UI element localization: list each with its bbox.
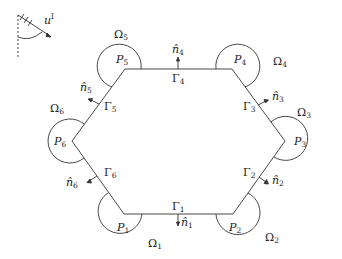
hexagon-diagram	[0, 0, 342, 259]
normal-n1-label: n̂1	[181, 217, 193, 230]
region-omega5-label: Ω5	[114, 29, 128, 42]
region-omega4-label: Ω4	[273, 56, 287, 69]
region-omega1-label: Ω1	[148, 238, 162, 251]
normal-n4-label: n̂4	[172, 44, 184, 57]
region-omega2-label: Ω2	[265, 232, 279, 245]
vertex-p4-label: P4	[234, 54, 246, 67]
edge-gamma5-label: Γ5	[104, 101, 116, 114]
normal-n5-label: n̂5	[80, 82, 92, 95]
vertex-p5-label: P5	[116, 54, 128, 67]
edge-gamma4-label: Γ4	[172, 73, 184, 86]
vertex-p3-label: P3	[294, 136, 306, 149]
normal-n3-label: n̂3	[272, 91, 284, 104]
incident-wave-label: uI	[44, 13, 54, 26]
normal-n6-label: n̂6	[66, 177, 78, 190]
edge-gamma6-label: Γ6	[104, 167, 116, 180]
vertex-p1-label: P1	[117, 222, 129, 235]
edge-gamma3-label: Γ3	[243, 101, 255, 114]
region-omega6-label: Ω6	[50, 103, 64, 116]
normal-n2-label: n̂2	[272, 175, 284, 188]
hexagon-boundary	[72, 69, 285, 214]
vertex-p2-label: P2	[229, 222, 241, 235]
edge-gamma1-label: Γ1	[172, 201, 184, 214]
region-omega3-label: Ω3	[297, 107, 311, 120]
vertex-p6-label: P6	[54, 136, 66, 149]
edge-gamma2-label: Γ2	[243, 167, 255, 180]
